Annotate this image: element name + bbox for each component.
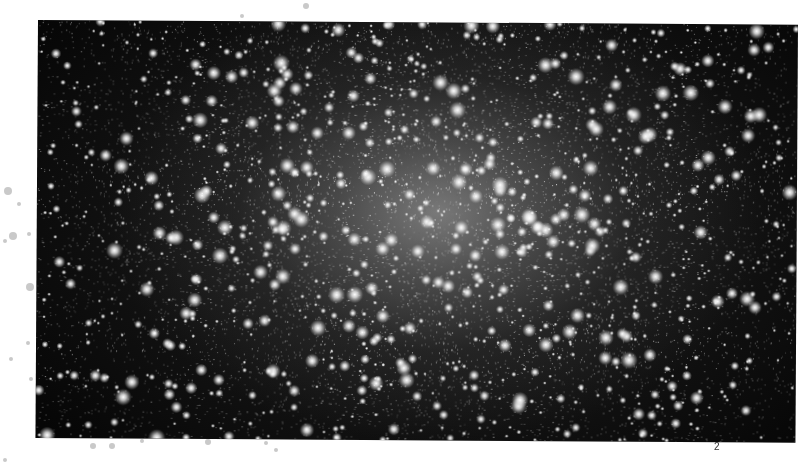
- margin-dot: [3, 458, 7, 462]
- margin-dot: [29, 377, 33, 381]
- margin-dot: [9, 232, 17, 240]
- margin-dot: [274, 448, 278, 452]
- margin-dot: [240, 14, 244, 18]
- margin-dot: [264, 441, 268, 445]
- margin-dot: [26, 341, 30, 345]
- margin-dot: [3, 239, 7, 243]
- page-number: 2: [714, 441, 720, 453]
- margin-dot: [109, 443, 115, 449]
- margin-dot: [17, 202, 21, 206]
- margin-dot: [90, 443, 96, 449]
- star-cluster-photo: [35, 20, 798, 443]
- margin-dot: [140, 439, 144, 443]
- margin-dot: [9, 357, 13, 361]
- star-field: [35, 20, 798, 443]
- margin-dot: [205, 439, 211, 445]
- margin-dot: [303, 3, 309, 9]
- margin-dot: [26, 283, 34, 291]
- margin-dot: [4, 187, 12, 195]
- margin-dot: [27, 232, 31, 236]
